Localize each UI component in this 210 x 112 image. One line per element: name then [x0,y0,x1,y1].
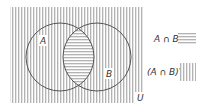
set-a-label: A [39,36,46,46]
set-b-label: B [106,69,112,79]
legend-swatch-intersection [178,32,196,45]
legend-label-complement: (A ∩ B)′ [147,67,181,77]
legend-swatch-complement [180,63,196,81]
universe-label: U [137,93,144,103]
legend-label-intersection: A ∩ B [153,34,179,44]
venn-diagram: A B U A ∩ B (A ∩ B)′ [0,0,210,112]
legend: A ∩ B (A ∩ B)′ [147,32,196,81]
